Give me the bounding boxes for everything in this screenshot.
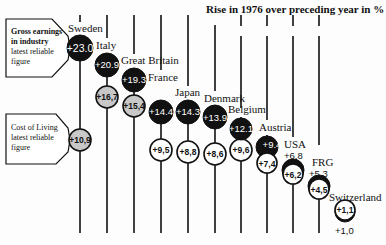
country-label-italy: Italy <box>96 40 116 51</box>
legend-earnings-text: Gross earnings in industry latest reliab… <box>11 27 62 67</box>
cost-value-belgium: +9,6 <box>233 146 250 155</box>
cost-value-denmark: +8,6 <box>207 150 224 159</box>
earn-value-switzerland: +1,0 <box>335 226 354 236</box>
country-label-france: France <box>148 72 178 83</box>
cost-value-usa: +6,2 <box>285 171 302 180</box>
legend-earnings-line3: latest reliable <box>11 47 62 57</box>
country-label-japan: Japan <box>175 87 200 98</box>
legend-cost-line3: figure <box>11 143 58 153</box>
earn-value-france: +14.4 <box>149 107 173 117</box>
chart-title: Rise in 1976 over preceding year in % <box>206 4 384 15</box>
earn-value-usa: +6,8 <box>284 151 303 161</box>
country-label-usa: USA <box>284 139 306 150</box>
legend-cost-line2: latest reliable <box>11 133 58 143</box>
country-label-austria: Austria <box>259 122 291 133</box>
country-label-great-britain: Great Britain <box>121 55 179 66</box>
earn-value-japan: +14.3 <box>176 107 200 117</box>
cost-value-japan: +8,8 <box>180 148 197 157</box>
legend-earnings-line2: in industry <box>11 37 62 47</box>
cost-value-france: +9,5 <box>153 146 170 155</box>
country-label-frg: FRG <box>312 157 333 168</box>
earn-value-belgium: +12.1 <box>229 124 253 134</box>
cost-value-austria: +7,4 <box>259 160 276 169</box>
earn-value-austria: +9.4 <box>263 140 282 150</box>
earn-value-great-britain: +19.3 <box>122 75 146 85</box>
country-label-sweden: Sweden <box>68 23 103 34</box>
cost-value-sweden: +10,9 <box>69 136 91 145</box>
legend-cost-text: Cost of Living latest reliable figure <box>11 123 58 153</box>
country-label-switzerland: Switzerland <box>329 192 382 203</box>
cost-value-switzerland: +1,1 <box>337 206 354 215</box>
earn-value-denmark: +13.9 <box>203 113 227 123</box>
earn-value-italy: +20.9 <box>95 60 119 70</box>
cost-value-italy: +16,7 <box>96 93 118 102</box>
cost-value-frg: +4,5 <box>311 186 328 195</box>
earn-value-sweden: +23.0 <box>67 43 94 54</box>
country-label-belgium: Belgium <box>228 104 266 115</box>
earn-value-frg: +5,3 <box>309 169 328 179</box>
legend-earnings-line4: figure <box>11 57 62 67</box>
legend-earnings-line1: Gross earnings <box>11 27 62 37</box>
cost-value-great-britain: +15,4 <box>123 102 145 111</box>
legend-cost-line1: Cost of Living <box>11 123 58 133</box>
